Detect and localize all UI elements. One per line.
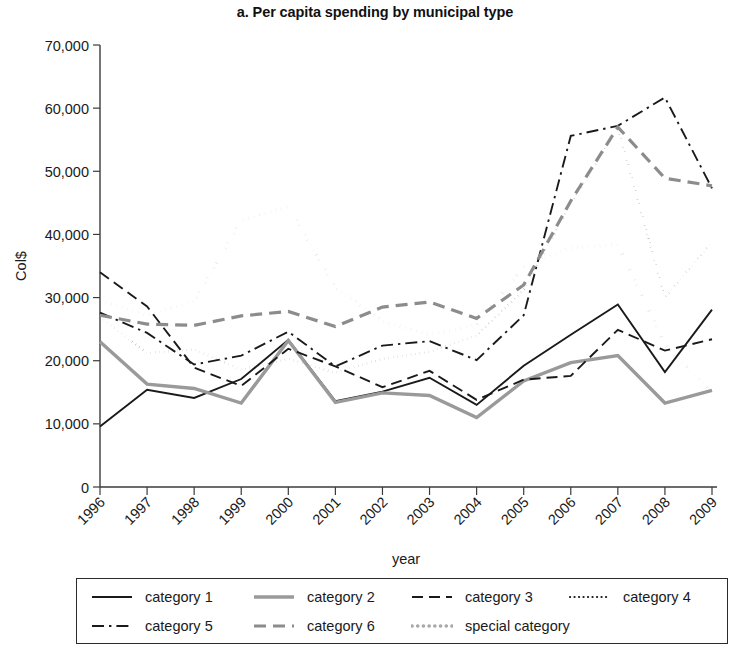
x-tick-label: 1996	[74, 494, 108, 528]
legend-item[interactable]: category 1	[91, 583, 213, 611]
legend-item[interactable]: category 6	[253, 612, 375, 640]
legend-swatch-solid-black	[91, 590, 133, 604]
axes	[93, 45, 717, 495]
legend-item[interactable]: category 2	[253, 583, 375, 611]
legend-item[interactable]: category 4	[569, 583, 691, 611]
x-tick-label: 2007	[592, 494, 626, 528]
legend-label: category 6	[307, 618, 375, 634]
x-tick-label: 2001	[309, 494, 343, 528]
line-chart-plot: 010,00020,00030,00040,00050,00060,00070,…	[0, 0, 750, 575]
legend-swatch-dotted-black	[569, 590, 611, 604]
x-tick-label: 2000	[262, 494, 296, 528]
x-tick-label: 2005	[498, 494, 532, 528]
y-tick-label: 60,000	[45, 101, 89, 117]
y-tick-label: 40,000	[45, 227, 89, 243]
series-line-1	[100, 305, 712, 427]
legend-swatch-dashdot-black	[91, 619, 133, 633]
legend-swatch-dashed-black	[411, 590, 453, 604]
y-tick-label: 70,000	[45, 38, 89, 54]
x-tick-label: 1998	[168, 494, 202, 528]
y-tick-label: 50,000	[45, 164, 89, 180]
y-axis-title: Col$	[13, 251, 29, 281]
legend-label: special category	[465, 618, 570, 634]
x-tick-label: 1997	[121, 494, 155, 528]
y-tick-label: 20,000	[45, 353, 89, 369]
series-line-5	[100, 97, 712, 366]
series-line-4	[100, 128, 712, 373]
legend-row: category 5category 6special category	[77, 612, 729, 640]
legend-label: category 1	[145, 589, 213, 605]
legend-label: category 4	[623, 589, 691, 605]
y-tick-label: 0	[81, 480, 89, 496]
legend-item[interactable]: category 5	[91, 612, 213, 640]
x-tick-label: 1999	[215, 494, 249, 528]
legend-label: category 2	[307, 589, 375, 605]
y-tick-label: 30,000	[45, 290, 89, 306]
series-line-3	[100, 272, 712, 400]
legend-row: category 1category 2category 3category 4	[77, 583, 729, 611]
series-line-7	[100, 207, 712, 393]
x-tick-label: 2003	[404, 494, 438, 528]
chart-legend: category 1category 2category 3category 4…	[76, 578, 728, 644]
y-tick-label: 10,000	[45, 416, 89, 432]
legend-label: category 5	[145, 618, 213, 634]
series-line-6	[100, 127, 712, 327]
series-line-2	[100, 341, 712, 418]
x-tick-label: 2006	[545, 494, 579, 528]
legend-item[interactable]: category 3	[411, 583, 533, 611]
x-axis-title: year	[392, 551, 420, 567]
legend-swatch-dotted-gray	[411, 619, 453, 633]
legend-label: category 3	[465, 589, 533, 605]
figure-container: a. Per capita spending by municipal type…	[0, 0, 750, 657]
legend-item[interactable]: special category	[411, 612, 570, 640]
x-tick-label: 2002	[356, 494, 390, 528]
x-tick-label: 2009	[686, 494, 720, 528]
x-tick-label: 2008	[639, 494, 673, 528]
series-lines	[100, 97, 712, 426]
legend-swatch-solid-gray	[253, 590, 295, 604]
x-tick-label: 2004	[451, 494, 485, 528]
legend-swatch-dashed-gray	[253, 619, 295, 633]
